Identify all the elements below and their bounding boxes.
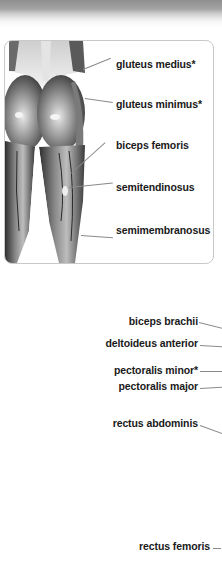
label-rectus-femoris: rectus femoris (139, 540, 210, 552)
label-deltoideus-anterior: deltoideus anterior (105, 337, 198, 349)
label-pectoralis-major: pectoralis major (118, 380, 198, 392)
leader-line (200, 425, 222, 434)
label-biceps-femoris: biceps femoris (116, 139, 189, 151)
label-rectus-abdominis: rectus abdominis (113, 417, 198, 429)
leader-line (213, 548, 221, 549)
muscle-diagram-page: gluteus medius* gluteus minimus* biceps … (0, 0, 222, 574)
header-bar (0, 0, 222, 28)
label-biceps-brachii: biceps brachii (129, 315, 198, 327)
label-pectoralis-minor: pectoralis minor* (114, 364, 198, 376)
label-gluteus-medius: gluteus medius* (116, 58, 196, 70)
posterior-muscles-card: gluteus medius* gluteus minimus* biceps … (4, 40, 214, 264)
leader-line (200, 371, 222, 372)
posterior-legs-illustration (5, 41, 87, 263)
leader-line (85, 98, 113, 103)
label-gluteus-minimus: gluteus minimus* (116, 98, 202, 110)
leader-line (199, 322, 222, 329)
leader-line (200, 387, 222, 389)
label-semimembranosus: semimembranosus (116, 224, 210, 236)
leader-line (200, 345, 222, 347)
leader-line (83, 58, 111, 70)
label-semitendinosus: semitendinosus (116, 181, 195, 193)
